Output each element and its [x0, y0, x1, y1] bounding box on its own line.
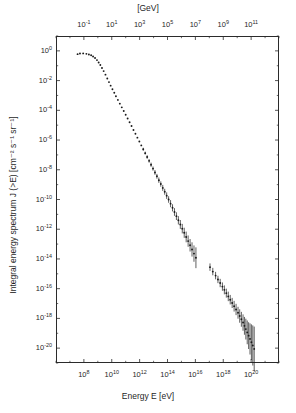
plot-area: [56, 36, 279, 363]
data-point: [88, 53, 90, 55]
data-point: [108, 81, 110, 83]
y-tick-label: 10-18: [14, 314, 52, 322]
y-tick-label: 10-8: [14, 166, 52, 174]
data-point: [212, 271, 214, 273]
data-point: [187, 240, 189, 242]
x-axis-title: Energy E [eV]: [0, 391, 296, 401]
data-point: [162, 187, 164, 189]
data-point: [166, 195, 168, 197]
top-tick-label: 10-1: [73, 21, 95, 29]
data-point: [115, 95, 117, 97]
y-tick-label: 10-20: [14, 344, 52, 352]
data-point: [231, 302, 233, 304]
data-point: [235, 309, 237, 311]
data-point: [152, 168, 154, 170]
data-point: [191, 248, 193, 250]
data-point: [239, 315, 241, 317]
data-point: [134, 133, 136, 135]
y-tick-label: 10-12: [14, 225, 52, 233]
data-point: [96, 59, 98, 61]
data-point: [248, 335, 250, 337]
x-tick-label: 1016: [183, 371, 207, 379]
x-tick-label: 1020: [239, 371, 263, 379]
x-tick-label: 1012: [128, 371, 152, 379]
data-point: [103, 70, 105, 72]
data-point: [154, 171, 156, 173]
data-point: [99, 64, 101, 66]
data-point: [209, 266, 211, 268]
data-point: [189, 244, 191, 246]
data-point: [123, 110, 125, 112]
data-point: [106, 78, 108, 80]
data-point: [170, 203, 172, 205]
x-tick-label: 1014: [156, 371, 180, 379]
data-point: [229, 299, 231, 301]
data-point: [92, 56, 94, 58]
data-point: [219, 282, 221, 284]
data-point: [119, 103, 121, 105]
caption-fragment: [18, 404, 268, 412]
data-point: [148, 160, 150, 162]
data-point: [117, 99, 119, 101]
data-point: [175, 215, 177, 217]
data-point: [253, 348, 255, 350]
y-axis-title: Integral energy spectrum J (>E) [cm⁻² s⁻…: [8, 55, 18, 355]
data-point: [136, 137, 138, 139]
y-tick-label: 10-6: [14, 136, 52, 144]
figure-container: [GeV] 10-11011031051071091011 10010-210-…: [0, 0, 296, 413]
data-point: [94, 57, 96, 59]
y-tick-label: 10-4: [14, 106, 52, 114]
data-point: [160, 183, 162, 185]
data-point: [142, 148, 144, 150]
data-point: [215, 275, 217, 277]
data-point: [113, 92, 115, 94]
data-point: [223, 289, 225, 291]
data-point: [246, 331, 248, 333]
x-tick-label: 1010: [100, 371, 124, 379]
data-point: [242, 322, 244, 324]
data-point: [177, 219, 179, 221]
data-point: [121, 106, 123, 108]
data-point: [133, 129, 135, 131]
data-point: [158, 179, 160, 181]
data-point: [111, 88, 113, 90]
data-point: [249, 338, 251, 340]
data-point: [240, 318, 242, 320]
data-point: [150, 164, 152, 166]
x-tick-label: 108: [72, 371, 96, 379]
top-tick-label: 103: [129, 21, 151, 29]
data-point: [127, 118, 129, 120]
data-point: [183, 232, 185, 234]
data-point: [179, 224, 181, 226]
top-tick-label: 107: [184, 21, 206, 29]
data-point: [168, 199, 170, 201]
data-point: [237, 312, 239, 314]
top-axis-title: [GeV]: [0, 3, 296, 13]
axis-ticks: [56, 36, 279, 363]
data-point: [85, 53, 87, 55]
top-tick-label: 105: [157, 21, 179, 29]
data-point: [144, 152, 146, 154]
y-tick-label: 10-16: [14, 285, 52, 293]
y-tick-label: 10-14: [14, 255, 52, 263]
data-point: [243, 325, 245, 327]
data-point: [125, 114, 127, 116]
y-tick-label: 100: [14, 47, 52, 55]
data-point: [174, 211, 176, 213]
data-point: [252, 345, 254, 347]
top-tick-label: 109: [212, 21, 234, 29]
data-point: [221, 286, 223, 288]
data-point: [131, 125, 133, 127]
data-point: [101, 67, 103, 69]
data-point: [172, 207, 174, 209]
x-tick-label: 1018: [211, 371, 235, 379]
data-point: [90, 54, 92, 56]
data-point: [245, 328, 247, 330]
data-point: [105, 74, 107, 76]
data-point: [185, 236, 187, 238]
data-point: [77, 53, 79, 55]
top-tick-label: 101: [101, 21, 123, 29]
data-point: [129, 121, 131, 123]
data-point: [233, 305, 235, 307]
data-point: [195, 257, 197, 259]
